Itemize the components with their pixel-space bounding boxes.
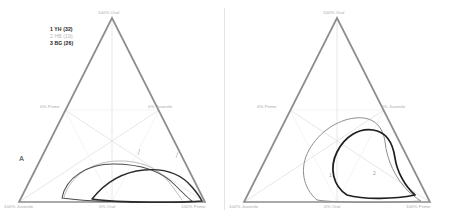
- panel-b-axis-left-mid: 0% Prime: [257, 104, 276, 109]
- figure-ternary-pair: 1 YH (32) 2 HB (19) 3 BG (26) A 100% Ora…: [0, 0, 449, 218]
- panel-b-contour-marker-1: 1: [329, 172, 332, 178]
- panel-a-contour-3: [92, 170, 202, 203]
- panel-a-vertex-top: 100% Oral: [98, 10, 119, 15]
- panel-a-contour-1: [62, 164, 192, 202]
- panel-b-axis-bottom-mid: 0% Oral: [324, 204, 340, 209]
- panel-a-ticks: [138, 149, 178, 158]
- panel-a-axis-right-mid: 0% Juvenile: [148, 104, 172, 109]
- panel-a-vertex-bottom-left: 100% Juvenile: [4, 204, 33, 209]
- panel-a-legend: 1 YH (32) 2 HB (19) 3 BG (26): [50, 26, 73, 48]
- panel-b-axis-right-mid: 0% Juvenile: [381, 104, 405, 109]
- panel-a-axis-bottom-mid: 0% Oral: [99, 204, 115, 209]
- panel-b-vertex-bottom-left: 100% Juvenile: [229, 204, 258, 209]
- panel-b-contour-marker-2: 2: [373, 170, 376, 176]
- panel-a-axis-left-mid: 0% Prime: [40, 104, 59, 109]
- panel-a-vertex-bottom-right: 100% Prime: [181, 204, 205, 209]
- panel-a-letter: A: [19, 155, 24, 162]
- panel-a-legend-item-2: 2 HB (19): [50, 33, 73, 40]
- panel-a-plot: [0, 0, 224, 218]
- panel-b-contour-2: [333, 130, 415, 199]
- panel-b-vertex-bottom-right: 100% Prime: [406, 204, 430, 209]
- panel-a-legend-item-1: 1 YH (32): [50, 26, 73, 33]
- panel-b-plot: [225, 0, 449, 218]
- panel-a-legend-item-3: 3 BG (26): [50, 40, 73, 47]
- panel-b-vertex-top: 100% Oral: [323, 10, 344, 15]
- panel-b: 1 DA (8) 2 VH (35) B 100% Oral 100% Juve…: [225, 0, 449, 218]
- panel-a: 1 YH (32) 2 HB (19) 3 BG (26) A 100% Ora…: [0, 0, 224, 218]
